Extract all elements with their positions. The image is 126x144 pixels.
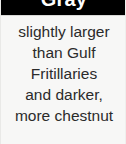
body-line: more chestnut (3, 105, 125, 126)
body-line: slightly larger (3, 21, 125, 42)
header-divider (1, 15, 126, 16)
body-line: and darker, (3, 84, 125, 105)
body-line: Fritillaries (3, 63, 125, 84)
card-header-title: Gray (1, 0, 126, 11)
card-header-band: Gray (1, 0, 126, 15)
card-body-text: slightly larger than Gulf Fritillaries a… (1, 21, 126, 126)
info-card: Gray slightly larger than Gulf Fritillar… (0, 0, 126, 144)
body-line: than Gulf (3, 42, 125, 63)
